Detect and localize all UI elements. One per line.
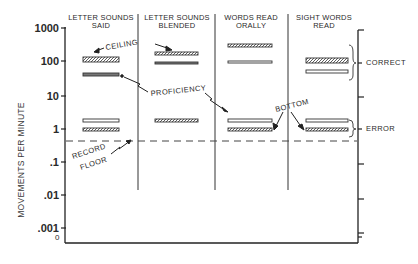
ytick-0.1: .1: [50, 156, 59, 168]
precision-teaching-chart: MOVEMENTS PER MINUTE 1000 100 10 1 .1 .0…: [0, 0, 418, 264]
bottom-annotation: BOTTOM: [274, 97, 310, 114]
header-blended-line2: BLENDED: [159, 21, 196, 30]
ytick-1: 1: [53, 123, 59, 135]
column-headers: LETTER SOUNDS SAID LETTER SOUNDS BLENDED…: [68, 13, 352, 30]
bar-blended-proficiency: [155, 62, 198, 64]
correct-label: CORRECT: [366, 58, 406, 67]
bar-orally-ceiling: [228, 44, 272, 47]
bar-said-error-bottom: [83, 128, 119, 131]
bar-orally-proficiency: [228, 61, 272, 63]
column-said-bars: [83, 57, 119, 131]
header-said-line2: SAID: [92, 21, 111, 30]
header-orally-line2: ORALLY: [236, 21, 266, 30]
bar-said-proficiency: [83, 73, 119, 76]
ytick-10: 10: [47, 90, 59, 102]
right-axis-ticks: [358, 30, 364, 237]
error-brace-icon: [349, 120, 356, 137]
bar-orally-error-proficiency: [228, 119, 272, 122]
y-axis-tick-labels: 1000 100 10 1 .1 .01 .001: [35, 22, 59, 234]
ytick-100: 100: [41, 55, 59, 67]
bar-sight-error-bottom: [306, 128, 348, 131]
bar-said-ceiling: [83, 57, 119, 62]
proficiency-annotation: PROFICIENCY: [150, 83, 206, 98]
correct-brace-icon: [349, 45, 356, 80]
column-orally-bars: [228, 44, 272, 131]
bar-orally-error-bottom: [228, 128, 272, 131]
bar-said-error-proficiency: [83, 119, 119, 122]
bar-blended-ceiling: [155, 52, 198, 55]
y-axis-label: MOVEMENTS PER MINUTE: [16, 102, 26, 218]
ytick-0.01: .01: [44, 189, 59, 201]
bar-sight-error-proficiency: [306, 119, 348, 122]
floor-arrow-icon: [111, 140, 131, 154]
bar-sight-ceiling: [306, 58, 348, 63]
header-sight-line2: READ: [313, 21, 335, 30]
column-sight-bars: [306, 58, 348, 131]
bar-sight-proficiency: [306, 70, 348, 73]
zero-mark: 0: [55, 233, 60, 242]
ytick-1000: 1000: [35, 22, 59, 34]
error-label: ERROR: [366, 124, 395, 133]
bar-blended-error: [155, 119, 198, 122]
ceiling-annotation: CEILING: [105, 37, 139, 52]
